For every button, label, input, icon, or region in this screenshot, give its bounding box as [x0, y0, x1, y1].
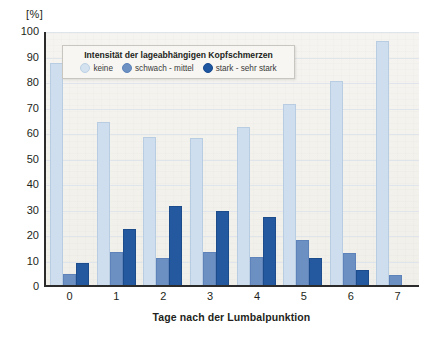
bar — [190, 138, 203, 285]
y-axis-tick-label: 30 — [14, 204, 39, 216]
bar — [263, 217, 276, 285]
bar — [97, 122, 110, 285]
legend-item-label: stark - sehr stark — [216, 64, 277, 73]
y-axis-tick-label: 80 — [14, 76, 39, 88]
bar — [76, 263, 89, 285]
legend-title: Intensität der lageabhängigen Kopfschmer… — [68, 50, 289, 60]
bar — [389, 275, 402, 285]
y-axis-tick-label: 100 — [14, 25, 39, 37]
legend-item: stark - sehr stark — [203, 63, 277, 73]
x-axis-tick-labels: 01234567 — [44, 290, 419, 306]
x-axis-tick-label: 5 — [278, 290, 325, 306]
y-axis-tick-label: 20 — [14, 229, 39, 241]
bar — [356, 270, 369, 285]
bar — [296, 240, 309, 285]
legend-item: keine — [80, 63, 113, 73]
bar-group — [372, 32, 419, 285]
y-axis-tick-label: 0 — [14, 280, 39, 292]
bar-group — [326, 32, 373, 285]
bar — [110, 252, 123, 285]
legend-items: keineschwach - mittelstark - sehr stark — [68, 63, 289, 73]
bar — [203, 252, 216, 285]
y-axis-unit-label: [%] — [26, 8, 43, 20]
bar — [309, 258, 322, 285]
legend-item-label: schwach - mittel — [135, 64, 194, 73]
legend-swatch-icon — [80, 63, 90, 73]
x-axis-tick-label: 2 — [138, 290, 185, 306]
y-axis-tick-label: 10 — [14, 255, 39, 267]
y-axis-tick-label: 60 — [14, 127, 39, 139]
bar — [283, 104, 296, 285]
x-axis-tick-label: 6 — [325, 290, 372, 306]
bar-chart: [%] 1009080706050403020100 01234567 Tage… — [0, 0, 433, 338]
x-axis-tick-label: 7 — [372, 290, 419, 306]
y-axis-tick-label: 90 — [14, 51, 39, 63]
x-axis-tick-label: 3 — [185, 290, 232, 306]
bar — [50, 63, 63, 285]
x-axis-tick-label: 0 — [44, 290, 91, 306]
bar — [169, 206, 182, 285]
bar — [216, 211, 229, 285]
y-axis-tick-label: 40 — [14, 178, 39, 190]
x-axis-title: Tage nach der Lumbalpunktion — [44, 311, 419, 323]
bar — [250, 257, 263, 285]
legend-item: schwach - mittel — [122, 63, 194, 73]
bar — [330, 81, 343, 285]
bar — [343, 253, 356, 285]
chart-legend: Intensität der lageabhängigen Kopfschmer… — [62, 45, 295, 79]
legend-swatch-icon — [122, 63, 132, 73]
bar — [237, 127, 250, 285]
bar — [156, 258, 169, 285]
x-axis-tick-label: 4 — [232, 290, 279, 306]
y-axis-tick-label: 70 — [14, 102, 39, 114]
y-axis-tick-label: 50 — [14, 153, 39, 165]
legend-item-label: keine — [93, 64, 113, 73]
x-axis-tick-label: 1 — [91, 290, 138, 306]
bar — [123, 229, 136, 285]
bar — [376, 41, 389, 285]
bar — [63, 274, 76, 285]
bar — [143, 137, 156, 285]
legend-swatch-icon — [203, 63, 213, 73]
